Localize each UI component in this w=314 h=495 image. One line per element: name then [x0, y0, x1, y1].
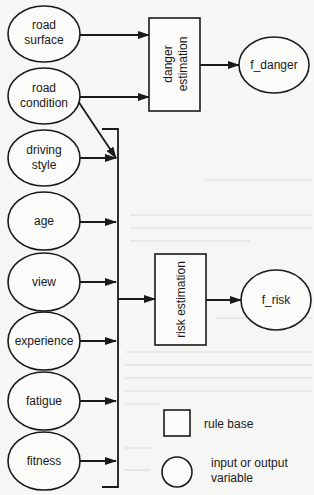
input-label-line2: condition — [20, 96, 68, 110]
input-experience: experience — [8, 312, 80, 370]
input-label: fatigue — [26, 394, 62, 408]
output-f-danger: f_danger — [239, 37, 309, 93]
output-label: f_danger — [250, 58, 297, 72]
input-fatigue: fatigue — [8, 372, 80, 430]
legend-rule-base-label: rule base — [204, 417, 254, 431]
input-label-line1: driving — [26, 143, 61, 157]
input-label-line1: road — [32, 18, 56, 32]
rule-base-label: risk estimation — [174, 261, 188, 338]
legend-variable-swatch — [162, 457, 192, 487]
legend: rule base input or output variable — [162, 410, 288, 487]
output-label: f_risk — [262, 293, 292, 307]
rule-base-risk-estimation: risk estimation — [155, 254, 206, 345]
input-fitness: fitness — [8, 432, 80, 490]
input-view: view — [8, 253, 80, 311]
input-label: view — [32, 275, 56, 289]
rule-base-label-line1: danger — [161, 45, 175, 82]
input-age: age — [8, 192, 80, 250]
input-road-surface: road surface — [8, 6, 80, 62]
output-f-risk: f_risk — [241, 270, 311, 330]
input-label-line2: style — [32, 158, 57, 172]
input-label: experience — [15, 334, 74, 348]
legend-rule-base-swatch — [164, 410, 190, 436]
input-label-line1: road — [32, 81, 56, 95]
legend-variable-label-line2: variable — [211, 471, 253, 485]
input-label: fitness — [27, 454, 62, 468]
input-label: age — [34, 214, 54, 228]
input-bus — [102, 129, 118, 487]
input-road-condition: road condition — [8, 68, 80, 124]
fuzzy-controller-diagram: road surface road condition driving styl… — [0, 0, 314, 495]
rule-base-label-line2: estimation — [176, 37, 190, 92]
input-driving-style: driving style — [8, 130, 80, 186]
arrow-road-condition-to-bus — [76, 98, 116, 158]
input-label-line2: surface — [24, 33, 64, 47]
legend-variable-label-line1: input or output — [211, 456, 288, 470]
rule-base-danger-estimation: danger estimation — [149, 18, 200, 111]
